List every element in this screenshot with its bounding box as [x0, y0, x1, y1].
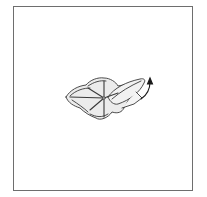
- origami-fold-diagram: [0, 0, 207, 197]
- center-point: [103, 97, 105, 99]
- arrow-head-icon: [148, 78, 153, 84]
